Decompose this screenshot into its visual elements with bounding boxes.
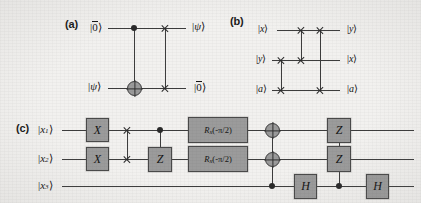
gate-h-first[interactable]: H	[294, 174, 317, 199]
panel-b-swap1-marker-top	[277, 56, 286, 65]
panel-a-wire-1	[108, 28, 186, 29]
panel-b-output-3: |a⟩	[347, 84, 358, 94]
panel-c-cnot-control-wire3	[269, 183, 275, 189]
panel-a-label: (a)	[65, 18, 78, 30]
gate-rx-wire2[interactable]: Rx(-π/2)	[188, 146, 248, 172]
quantum-circuit-figure: (a) |0⟩ |ψ⟩ |ψ⟩ |0⟩ (b) |x⟩ |y⟩ |a⟩ |y⟩ …	[0, 0, 421, 203]
gate-rx-wire1[interactable]: Rx(-π/2)	[188, 117, 248, 143]
panel-c-wire-3	[62, 186, 414, 187]
scan-vignette-overlay	[0, 0, 421, 203]
panel-a-swap-marker-bottom	[161, 84, 170, 93]
panel-b-output-1: |y⟩	[347, 24, 357, 34]
panel-b-input-1: |x⟩	[258, 24, 268, 34]
panel-b-label: (b)	[230, 15, 243, 27]
panel-a-cnot-control	[131, 25, 137, 31]
gate-z-controlled[interactable]: Z	[148, 147, 172, 172]
gate-z-wire1[interactable]: Z	[327, 118, 351, 143]
panel-b-swap2-marker-top	[297, 26, 306, 35]
gate-z-wire2[interactable]: Z	[327, 146, 351, 172]
panel-c-input-3: |x3⟩	[38, 180, 53, 191]
panel-b-swap3-marker-bottom	[316, 86, 325, 95]
panel-a-swap-line	[165, 28, 166, 88]
panel-a-output-top: |ψ⟩	[192, 21, 205, 32]
panel-a-wire-2	[108, 88, 186, 89]
panel-b-input-3: |a⟩	[256, 84, 267, 94]
panel-b-swap3-marker-top	[316, 26, 325, 35]
panel-a-output-bottom: |0⟩	[194, 81, 206, 93]
panel-b-swap1-marker-bottom	[277, 86, 286, 95]
panel-c-input-1: |x1⟩	[38, 124, 53, 135]
gate-x-wire2[interactable]: X	[86, 147, 109, 171]
panel-a-input-top: |0⟩	[90, 21, 102, 33]
panel-c-cz-control	[157, 127, 163, 133]
panel-c-label: (c)	[16, 122, 29, 134]
panel-b-swap3-line	[320, 30, 321, 90]
scan-grain-overlay	[0, 0, 421, 203]
panel-c-input-2: |x2⟩	[38, 153, 53, 164]
panel-b-swap2-marker-bottom	[297, 56, 306, 65]
panel-c-swap-marker-top	[123, 126, 132, 135]
panel-a-input-bottom: |ψ⟩	[88, 81, 101, 92]
panel-a-cnot-target	[127, 81, 142, 96]
panel-c-cnot-target-wire1	[265, 123, 280, 138]
panel-a-swap-marker-top	[161, 24, 170, 33]
panel-b-output-2: |x⟩	[347, 54, 357, 64]
panel-c-cnot-target-wire2	[265, 152, 280, 167]
panel-b-input-2: |y⟩	[256, 54, 266, 64]
gate-h-second[interactable]: H	[366, 174, 389, 199]
panel-c-czz-control-wire3	[336, 183, 342, 189]
panel-c-swap-marker-bottom	[123, 155, 132, 164]
panel-a-cnot-line	[134, 28, 135, 88]
gate-x-wire1[interactable]: X	[86, 118, 109, 142]
panel-b-wire-1	[277, 30, 340, 31]
